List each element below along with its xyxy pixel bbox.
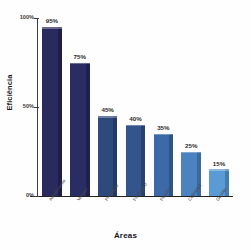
x-axis-title: Áreas (0, 231, 251, 240)
bar-top-edge (98, 116, 118, 118)
bar-value-label: 75% (74, 53, 86, 60)
bar-top-edge (209, 169, 229, 171)
plot-area: 95%75%45%40%35%25%15% (38, 18, 233, 196)
bar-top-edge (181, 152, 201, 154)
bar-value-label: 15% (213, 160, 225, 167)
bar-chart: Eficiência 0%50%100% 95%75%45%40%35%25%1… (0, 0, 251, 250)
bar-value-label: 45% (101, 106, 113, 113)
y-tick-label: 50% (6, 103, 34, 109)
y-tick: 0% (0, 192, 34, 200)
bar-side-face (58, 27, 62, 196)
bar-top-edge (42, 27, 62, 29)
bar-side-face (86, 63, 90, 197)
y-tick-label: 100% (6, 14, 34, 20)
bar-top-edge (126, 125, 146, 127)
bar-value-label: 40% (129, 115, 141, 122)
bar-value-label: 95% (46, 17, 58, 24)
y-axis-title: Eficiência (5, 63, 14, 123)
chart-title (0, 0, 251, 3)
bar-value-label: 25% (185, 142, 197, 149)
y-tick: 50% (0, 103, 34, 111)
y-tick-label: 0% (6, 192, 34, 198)
y-tick: 100% (0, 14, 34, 22)
bar-top-edge (154, 134, 174, 136)
bar[interactable]: 75% (70, 63, 90, 197)
bar[interactable]: 95% (42, 27, 62, 196)
bar-top-edge (70, 63, 90, 65)
bar-value-label: 35% (157, 124, 169, 131)
